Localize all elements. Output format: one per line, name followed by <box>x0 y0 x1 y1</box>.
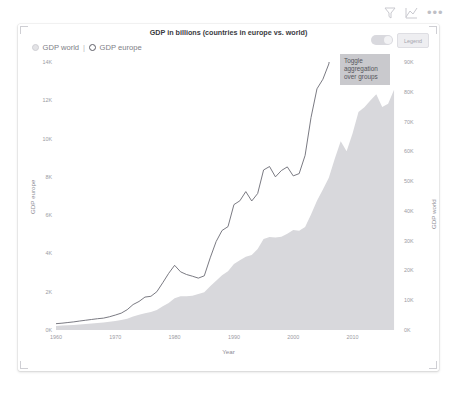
visual-card: GDP in billions (countries in europe vs.… <box>18 24 439 371</box>
legend-label-europe: GDP europe <box>100 43 142 52</box>
aggregation-toggle[interactable] <box>371 35 393 45</box>
y-axis-left-tick: 12K <box>18 97 52 103</box>
y-axis-right-tick: 10K <box>404 297 438 303</box>
legend-separator: | <box>83 43 85 52</box>
x-axis-tick: 1980 <box>169 334 181 340</box>
y-axis-left-tick: 8K <box>18 174 52 180</box>
x-axis-tick: 1970 <box>109 334 121 340</box>
plot-area[interactable] <box>56 62 400 330</box>
legend-item-gdp-europe[interactable]: GDP europe <box>89 43 142 52</box>
series-area-gdp-world <box>56 90 394 330</box>
aggregation-tooltip: Toggle aggregation over groups <box>340 54 390 85</box>
y-axis-right-label: GDP world <box>430 199 437 229</box>
card-corner-bottom-left <box>20 361 28 369</box>
y-axis-left-tick: 6K <box>18 212 52 218</box>
y-axis-right-tick: 60K <box>404 148 438 154</box>
chart-legend: GDP world | GDP europe <box>32 43 142 52</box>
y-axis-right-tick: 40K <box>404 208 438 214</box>
y-axis-right-tick: 20K <box>404 267 438 273</box>
legend-marker-europe-icon <box>89 44 96 51</box>
y-axis-right-tick: 0K <box>404 327 438 333</box>
filter-icon[interactable] <box>382 5 398 21</box>
tooltip-line-2: aggregation <box>344 65 386 73</box>
tooltip-line-3: over groups <box>344 73 386 81</box>
toggle-knob <box>384 36 392 44</box>
panel-toolbar: ••• <box>0 0 457 24</box>
y-axis-left-tick: 2K <box>18 289 52 295</box>
card-corner-bottom-right <box>429 361 437 369</box>
x-axis-tick: 1960 <box>50 334 62 340</box>
y-axis-right-tick: 70K <box>404 119 438 125</box>
y-axis-left-tick: 10K <box>18 136 52 142</box>
y-axis-right-tick: 90K <box>404 59 438 65</box>
y-axis-right-tick: 30K <box>404 238 438 244</box>
legend-marker-world-icon <box>32 44 39 51</box>
y-axis-right-tick: 50K <box>404 178 438 184</box>
y-axis-left-tick: 0K <box>18 327 52 333</box>
plot-svg <box>56 62 400 330</box>
y-axis-right-tick: 80K <box>404 89 438 95</box>
tooltip-line-1: Toggle <box>344 57 386 65</box>
x-axis-tick: 2010 <box>347 334 359 340</box>
legend-item-gdp-world[interactable]: GDP world <box>32 43 79 52</box>
focus-mode-icon[interactable] <box>404 5 420 21</box>
legend-label-world: GDP world <box>43 43 80 52</box>
x-axis-tick: 1990 <box>228 334 240 340</box>
y-axis-left-tick: 4K <box>18 250 52 256</box>
x-axis-tick: 2000 <box>287 334 299 340</box>
y-axis-left-tick: 14K <box>18 59 52 65</box>
x-axis-label: Year <box>18 348 439 355</box>
legend-button[interactable]: Legend <box>397 33 429 48</box>
more-options-icon[interactable]: ••• <box>427 5 443 21</box>
y-axis-left-label: GDP europe <box>29 180 36 214</box>
